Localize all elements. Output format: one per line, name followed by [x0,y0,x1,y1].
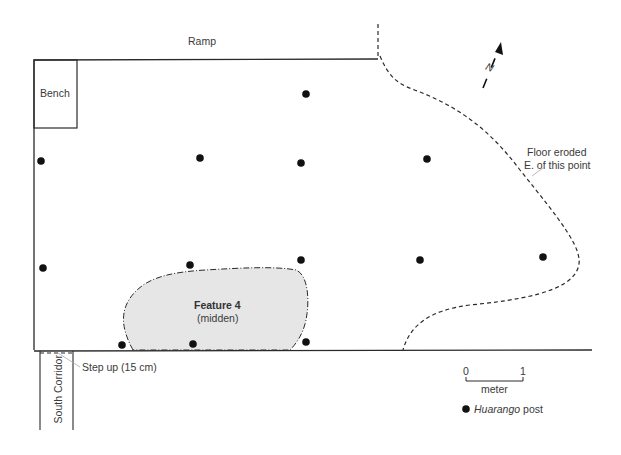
south-wall [34,350,592,351]
post-marker [297,256,305,264]
feature-subtitle: (midden) [197,313,238,324]
post-marker [297,159,305,167]
post-marker [37,157,45,165]
legend-label: Huarango post [474,404,543,415]
legend-italic: Huarango [474,403,520,415]
legend-post-icon [462,405,470,413]
post-marker [118,341,126,349]
south-corridor-label: South Corridor [53,351,64,427]
eroded-label-2: E. of this point [524,160,591,171]
feature-title: Feature 4 [194,300,241,311]
site-plan [0,0,621,455]
scale-0-label: 0 [463,366,469,377]
post-marker [423,155,431,163]
post-marker [302,338,310,346]
post-marker [186,261,194,269]
eroded-label-1: Floor eroded [527,147,587,158]
scale-unit-label: meter [481,384,508,395]
post-marker [196,154,204,162]
post-marker [39,264,47,272]
post-marker [539,253,547,261]
post-marker [416,256,424,264]
eroded-floor-boundary [380,56,579,350]
step-up-label: Step up (15 cm) [82,362,157,373]
scale-1-label: 1 [520,366,526,377]
legend-rest: post [520,403,543,415]
post-marker [302,90,310,98]
ramp-label: Ramp [188,36,216,47]
scale-bar [466,377,523,381]
bench-label: Bench [40,88,70,99]
post-marker [189,340,197,348]
